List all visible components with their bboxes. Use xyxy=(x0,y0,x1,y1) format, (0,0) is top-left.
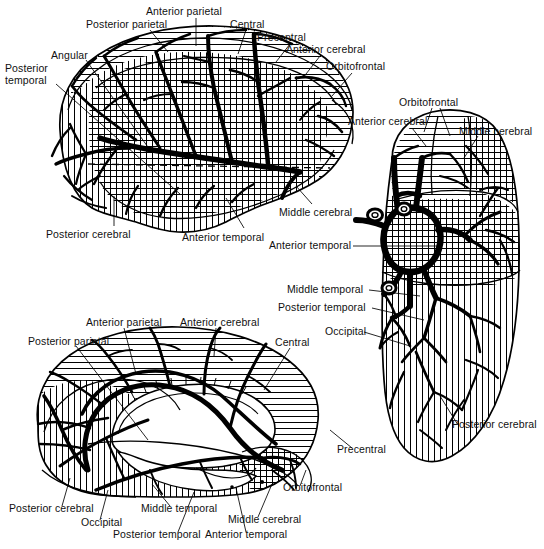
label-med-orbitofrontal: Orbitofrontal xyxy=(283,482,342,494)
label-inf-anterior-temporal: Anterior temporal xyxy=(269,240,351,252)
label-med-central: Central xyxy=(275,337,310,349)
label-med-anterior-parietal: Anterior parietal xyxy=(86,317,162,329)
label-inf-anterior-cerebral: Anterior cerebral xyxy=(348,116,427,128)
label-inf-middle-temporal: Middle temporal xyxy=(287,284,363,296)
label-med-posterior-temporal: Posterior temporal xyxy=(113,529,201,541)
label-med-posterior-parietal: Posterior parietal xyxy=(28,336,109,348)
label-lat-central: Central xyxy=(230,19,265,31)
label-med-anterior-cerebral: Anterior cerebral xyxy=(180,317,259,329)
label-med-occipital: Occipital xyxy=(81,517,122,529)
label-lat-anterior-cerebral: Anterior cerebral xyxy=(286,44,365,56)
label-lat-precentral: Precentral xyxy=(257,32,306,44)
label-med-precentral: Precentral xyxy=(337,444,386,456)
cerebral-artery-territory-figure: Posterior parietal Anterior parietal Cen… xyxy=(0,0,544,549)
label-med-middle-cerebral: Middle cerebral xyxy=(228,514,301,526)
figure-svg xyxy=(0,0,544,549)
label-lat-anterior-temporal: Anterior temporal xyxy=(182,232,264,244)
label-inf-orbitofrontal: Orbitofrontal xyxy=(399,97,458,109)
label-lat-anterior-parietal: Anterior parietal xyxy=(146,6,222,18)
label-med-anterior-temporal: Anterior temporal xyxy=(205,529,287,541)
label-lat-angular: Angular xyxy=(51,50,88,62)
label-lat-posterior-cerebral: Posterior cerebral xyxy=(46,229,131,241)
label-lat-posterior-temporal: Posterior temporal xyxy=(5,62,67,86)
label-inf-occipital: Occipital xyxy=(325,326,366,338)
label-lat-orbitofrontal: Orbitofrontal xyxy=(326,61,385,73)
label-med-middle-temporal: Middle temporal xyxy=(141,503,217,515)
label-inf-posterior-temporal: Posterior temporal xyxy=(278,302,366,314)
inferior-view xyxy=(356,110,528,470)
label-lat-posterior-parietal: Posterior parietal xyxy=(86,19,167,31)
label-inf-middle-cerebral: Middle cerebral xyxy=(459,126,532,138)
label-inf-posterior-cerebral: Posterior cerebral xyxy=(452,419,537,431)
label-med-posterior-cerebral: Posterior cerebral xyxy=(9,503,94,515)
label-lat-middle-cerebral: Middle cerebral xyxy=(279,207,352,219)
